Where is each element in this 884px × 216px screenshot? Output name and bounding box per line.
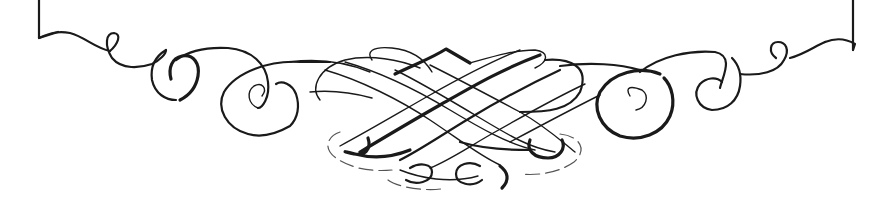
right-frame-corner — [825, 0, 855, 50]
ornament-canvas — [0, 0, 884, 216]
left-frame-corner — [39, 0, 110, 51]
center-knot — [290, 48, 600, 175]
calligraphic-flourish — [0, 0, 884, 216]
bottom-curl — [388, 163, 507, 189]
left-scrolls — [107, 33, 330, 136]
right-scrolls — [560, 42, 825, 138]
